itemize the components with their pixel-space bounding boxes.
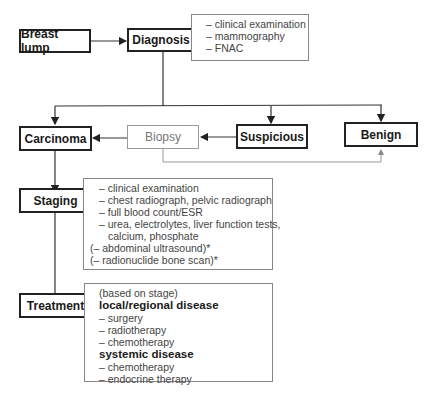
note-item: – FNAC — [206, 42, 302, 54]
note-item: – chemotherapy — [99, 361, 266, 373]
node-carcinoma: Carcinoma — [19, 126, 92, 151]
note-item: – clinical examination — [206, 18, 302, 30]
note-item: – endocrine therapy — [99, 373, 266, 385]
treatment-notes: (based on stage) local/regional disease … — [84, 283, 273, 382]
note-item: – mammography — [206, 30, 302, 42]
note-item: – surgery — [99, 312, 266, 324]
node-staging: Staging — [19, 188, 92, 213]
note-intro: (based on stage) — [99, 287, 266, 299]
note-item: – chemotherapy — [99, 336, 266, 348]
systemic-disease-heading: systemic disease — [99, 348, 266, 361]
local-disease-heading: local/regional disease — [99, 299, 266, 312]
node-biopsy: Biopsy — [127, 125, 199, 149]
node-suspicious: Suspicious — [236, 124, 308, 149]
note-item: – urea, electrolytes, liver function tes… — [90, 218, 266, 230]
note-item: (– radionuclide bone scan)* — [90, 254, 266, 266]
note-item: calcium, phosphate — [90, 230, 266, 242]
note-item: (– abdominal ultrasound)* — [90, 242, 266, 254]
node-treatment: Treatment — [19, 293, 92, 318]
staging-notes: – clinical examination – chest radiograp… — [83, 178, 273, 270]
node-breast-lump: Breast lump — [19, 29, 91, 53]
node-benign: Benign — [344, 122, 418, 147]
diagnosis-notes: – clinical examination – mammography – F… — [191, 14, 309, 61]
note-item: – chest radiograph, pelvic radiograph — [90, 194, 266, 206]
node-diagnosis: Diagnosis — [127, 28, 195, 52]
note-item: – radiotherapy — [99, 324, 266, 336]
note-item: – full blood count/ESR — [90, 206, 266, 218]
note-item: – clinical examination — [90, 182, 266, 194]
